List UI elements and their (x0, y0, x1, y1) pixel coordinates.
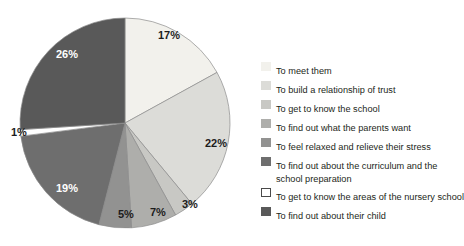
legend-item-label: To get to know the school (276, 104, 380, 114)
pie-slice-value-label: 26% (56, 49, 78, 60)
legend-item-label: To find out what the parents want (276, 123, 411, 133)
legend-item-label: To find out about their child (276, 211, 386, 221)
legend-swatch-icon (261, 81, 271, 90)
legend-item[interactable]: To get to know the areas of the nursery … (261, 186, 457, 204)
pie-slice-group (20, 18, 230, 228)
legend-swatch-icon (261, 188, 271, 197)
legend-item[interactable]: To find out about their child (261, 205, 457, 223)
legend-swatch-icon (261, 138, 271, 147)
chart-legend: To meet themTo build a relationship of t… (261, 60, 457, 224)
legend-swatch-icon (261, 119, 271, 128)
legend-item[interactable]: To feel relaxed and relieve their stress (261, 136, 457, 154)
legend-item[interactable]: To find out what the parents want (261, 117, 457, 135)
legend-item[interactable]: To build a relationship of trust (261, 79, 457, 97)
legend-item[interactable]: To meet them (261, 60, 457, 78)
legend-item-label: To meet them (276, 66, 332, 76)
pie-slice (20, 18, 125, 130)
pie-slice-value-label: 7% (150, 207, 166, 218)
legend-item-label: To build a relationship of trust (276, 85, 396, 95)
pie-slice-value-label: 19% (56, 183, 78, 194)
legend-item-label: To feel relaxed and relieve their stress (276, 142, 431, 152)
pie-slice-value-label: 17% (158, 30, 180, 41)
legend-item[interactable]: To get to know the school (261, 98, 457, 116)
legend-item-label: To get to know the areas of the nursery … (276, 192, 464, 202)
pie-slice-value-label: 5% (118, 209, 134, 220)
legend-swatch-icon (261, 207, 271, 216)
pie-slice-value-label: 3% (182, 199, 198, 210)
legend-swatch-icon (261, 62, 271, 71)
pie-chart-plot: 17%22%3%7%5%19%1%26% (0, 0, 250, 246)
pie-slice-value-label: 22% (205, 138, 227, 149)
legend-swatch-icon (261, 157, 271, 166)
legend-swatch-icon (261, 100, 271, 109)
legend-item-label-continued: school preparation (276, 174, 457, 186)
legend-item[interactable]: To find out about the curriculum and the (261, 155, 457, 173)
legend-item-label: To find out about the curriculum and the (276, 161, 437, 171)
pie-slice-value-label: 1% (11, 127, 27, 138)
